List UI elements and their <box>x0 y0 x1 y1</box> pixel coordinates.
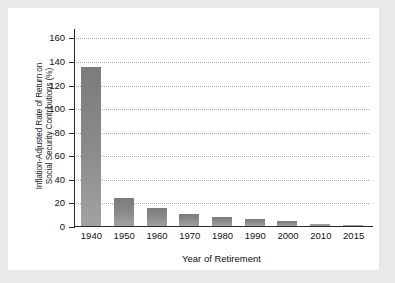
bar-2010[interactable] <box>310 224 330 226</box>
x-axis-tick-label-1960: 1960 <box>141 230 174 241</box>
y-axis-tick-label: 160 <box>49 32 65 43</box>
bar-1950[interactable] <box>114 198 134 226</box>
bar-2000[interactable] <box>277 221 297 226</box>
plot-area: 020406080100120140160 <box>74 29 369 227</box>
y-axis-tick-label: 60 <box>54 150 65 161</box>
y-axis-tick-label: 40 <box>54 174 65 185</box>
y-axis-tick-label: 0 <box>60 221 65 232</box>
bar-1960[interactable] <box>147 208 167 226</box>
x-axis-tick-label-1970: 1970 <box>173 230 206 241</box>
x-axis-title: Year of Retirement <box>74 253 369 264</box>
x-axis-tick-label-2000: 2000 <box>272 230 305 241</box>
bar-slot <box>75 29 108 226</box>
bar-slot <box>271 29 304 226</box>
y-axis-tick-mark <box>69 227 75 228</box>
x-axis-tick-label-2010: 2010 <box>304 230 337 241</box>
x-axis-tick-label-1950: 1950 <box>108 230 141 241</box>
chart-panel: Inflation-Adjusted Rate of Return on Soc… <box>8 8 379 270</box>
x-axis-tick-label-1990: 1990 <box>239 230 272 241</box>
bar-1980[interactable] <box>212 217 232 226</box>
bar-1970[interactable] <box>179 214 199 226</box>
x-axis-tick-label-1980: 1980 <box>206 230 239 241</box>
y-axis-tick-label: 80 <box>54 127 65 138</box>
bar-slot <box>206 29 239 226</box>
x-axis-tick-labels: 194019501960197019801990200020102015 <box>75 230 370 241</box>
bar-slot <box>336 29 369 226</box>
chart-figure: Inflation-Adjusted Rate of Return on Soc… <box>0 0 395 283</box>
bar-series <box>75 29 369 226</box>
bar-slot <box>238 29 271 226</box>
x-axis-tick-label-1940: 1940 <box>75 230 108 241</box>
x-axis-tick-label-2015: 2015 <box>337 230 370 241</box>
y-axis-tick-label: 120 <box>49 80 65 91</box>
y-axis-tick-label: 140 <box>49 56 65 67</box>
bar-slot <box>140 29 173 226</box>
y-axis-title-line-1: Inflation-Adjusted Rate of Return on <box>35 63 46 190</box>
bar-slot <box>108 29 141 226</box>
bar-1940[interactable] <box>81 67 101 226</box>
bar-slot <box>173 29 206 226</box>
bar-slot <box>304 29 337 226</box>
bar-1990[interactable] <box>245 219 265 226</box>
y-axis-tick-label: 100 <box>49 103 65 114</box>
bar-2015[interactable] <box>343 225 363 226</box>
y-axis-tick-label: 20 <box>54 197 65 208</box>
